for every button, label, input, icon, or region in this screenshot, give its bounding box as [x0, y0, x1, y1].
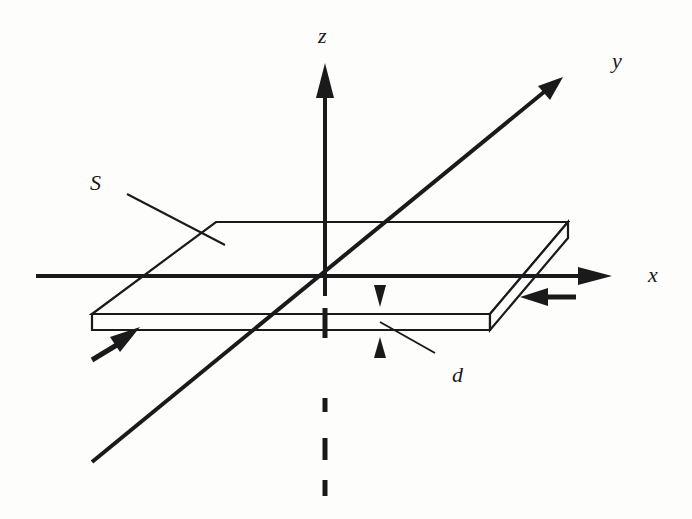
x-axis-label: x — [648, 264, 658, 286]
s-leader-line — [127, 194, 225, 245]
z-axis-label: z — [318, 25, 327, 47]
d-marker-bottom-arrow — [374, 337, 386, 358]
z-axis-arrowhead — [316, 63, 334, 98]
y-axis-label: y — [612, 50, 622, 72]
slab-axes-diagram — [0, 0, 692, 519]
y-axis-arrowhead — [538, 77, 563, 100]
diagram-canvas: z y x S d — [0, 0, 692, 519]
x-axis-arrowhead — [578, 267, 612, 285]
thickness-label-d: d — [452, 364, 463, 386]
surface-label-s: S — [90, 172, 101, 194]
